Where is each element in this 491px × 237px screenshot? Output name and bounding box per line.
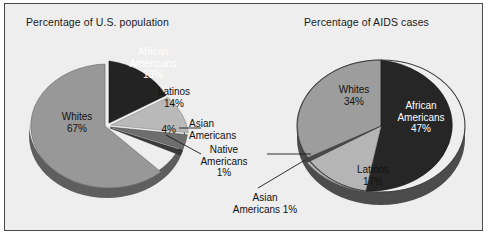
label-african-americans-right-value: 47% (411, 123, 431, 134)
label-native-left-name2: Americans (200, 156, 247, 167)
label-latinos-right-name: Latinos (357, 164, 389, 175)
label-african-americans-right-name1: African (405, 100, 436, 111)
figure-frame: Percentage of U.S. population Percentage… (4, 3, 483, 231)
label-whites-left-name: Whites (62, 111, 93, 122)
label-whites-right-value: 34% (344, 96, 364, 107)
label-african-americans-left: African Americans 13% (118, 46, 188, 81)
label-asian-right-name1: Asian (252, 192, 277, 203)
label-african-americans-left-value: 13% (143, 69, 163, 80)
label-african-americans-left-name1: African (137, 46, 168, 57)
label-asian-americans-right: Asian Americans 1% (218, 192, 312, 215)
label-native-americans-left: Native Americans 1% (185, 144, 263, 179)
label-latinos-left-value: 14% (164, 98, 184, 109)
label-whites-right-name: Whites (339, 84, 370, 95)
label-native-left-value: 1% (217, 167, 231, 178)
label-african-americans-right: African Americans 47% (384, 100, 458, 135)
label-native-left-name1: Native (210, 144, 238, 155)
label-whites-right: Whites 34% (325, 84, 383, 107)
label-latinos-right: Latinos 17% (346, 164, 400, 187)
label-asian-americans-left-value: 4% (148, 124, 176, 136)
label-latinos-left-name: Latinos (158, 86, 190, 97)
label-whites-left-value: 67% (67, 123, 87, 134)
label-asian-right-name2: Americans 1% (233, 204, 297, 215)
label-asian-pct-left: 4% (162, 124, 176, 135)
chart-title-us-population: Percentage of U.S. population (26, 16, 169, 28)
label-latinos-right-value: 17% (363, 176, 383, 187)
label-asian-americans-left: Asian Americans (189, 118, 259, 141)
label-asian-left-name2: Americans (189, 130, 236, 141)
label-asian-left-name1: Asian (189, 118, 214, 129)
label-african-americans-left-name2: Americans (129, 58, 176, 69)
label-african-americans-right-name2: Americans (397, 112, 444, 123)
chart-title-aids-cases: Percentage of AIDS cases (304, 16, 429, 28)
label-whites-left: Whites 67% (46, 111, 108, 134)
label-latinos-left: Latinos 14% (148, 86, 200, 109)
